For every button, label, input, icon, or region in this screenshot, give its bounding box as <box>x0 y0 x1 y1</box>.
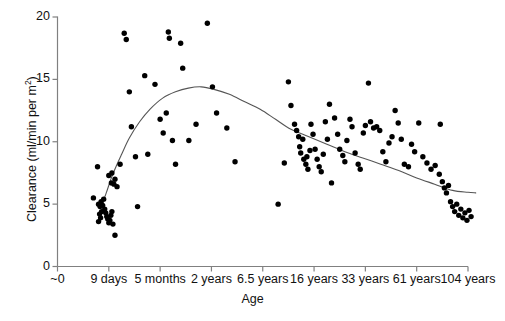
data-point <box>305 166 310 171</box>
data-point <box>416 120 421 125</box>
data-point <box>340 153 345 158</box>
data-point <box>308 122 313 127</box>
data-point <box>205 21 210 26</box>
data-point <box>444 190 449 195</box>
data-point <box>399 137 404 142</box>
data-point <box>337 147 342 152</box>
data-point <box>342 159 347 164</box>
data-point <box>297 144 302 149</box>
data-point <box>112 233 117 238</box>
data-point <box>96 219 101 224</box>
data-point <box>292 122 297 127</box>
data-point <box>389 134 394 139</box>
x-axis-label-text: Age <box>241 292 263 306</box>
data-point <box>286 79 291 84</box>
data-point <box>157 117 162 122</box>
data-point <box>91 195 96 200</box>
x-axis-tick-label: ~0 <box>50 272 64 286</box>
data-point <box>312 147 317 152</box>
data-point <box>428 166 433 171</box>
data-point <box>386 140 391 145</box>
data-point <box>186 138 191 143</box>
data-point <box>355 162 360 167</box>
data-point <box>193 122 198 127</box>
data-point <box>167 36 172 41</box>
data-point <box>327 102 332 107</box>
data-point <box>347 117 352 122</box>
x-axis-ticks <box>58 267 469 272</box>
data-point <box>170 138 175 143</box>
x-axis-tick-label: 33 years <box>341 272 389 286</box>
data-point <box>352 150 357 155</box>
data-point <box>466 208 471 213</box>
data-point <box>145 152 150 157</box>
data-point <box>314 157 319 162</box>
data-point <box>124 37 129 42</box>
data-point <box>366 80 371 85</box>
x-axis-tick-label: 5 months <box>134 272 185 286</box>
data-point <box>464 218 469 223</box>
data-point <box>129 124 134 129</box>
data-point <box>294 128 299 133</box>
data-point <box>304 154 309 159</box>
scatter-chart-figure: Clearance (ml/min per m2) 05101520 ~09 d… <box>0 0 505 321</box>
data-point <box>420 154 425 159</box>
data-point <box>300 137 305 142</box>
x-axis-label: Age <box>0 292 505 306</box>
data-point <box>332 115 337 120</box>
data-point <box>214 110 219 115</box>
data-point <box>133 154 138 159</box>
data-point <box>335 132 340 137</box>
data-point <box>361 130 366 135</box>
data-point <box>424 160 429 165</box>
data-point <box>468 214 473 219</box>
data-point <box>142 73 147 78</box>
data-point <box>112 176 117 181</box>
data-point <box>152 82 157 87</box>
data-point <box>383 159 388 164</box>
data-point <box>321 152 326 157</box>
data-point <box>109 170 114 175</box>
data-point <box>446 183 451 188</box>
data-point <box>310 132 315 137</box>
data-point <box>135 204 140 209</box>
data-point <box>95 164 100 169</box>
data-point <box>358 166 363 171</box>
data-point <box>110 221 115 226</box>
data-point <box>101 196 106 201</box>
data-point <box>114 184 119 189</box>
data-point <box>109 209 114 214</box>
data-point <box>178 41 183 46</box>
data-point <box>392 108 397 113</box>
data-point <box>288 103 293 108</box>
y-axis-ticks <box>53 17 58 267</box>
data-points <box>91 21 474 238</box>
data-point <box>380 149 385 154</box>
data-point <box>282 160 287 165</box>
data-point <box>368 119 373 124</box>
data-point <box>210 84 215 89</box>
data-point <box>122 31 127 36</box>
data-point <box>161 130 166 135</box>
data-point <box>303 162 308 167</box>
data-point <box>406 164 411 169</box>
data-point <box>344 138 349 143</box>
data-point <box>298 150 303 155</box>
data-point <box>432 163 437 168</box>
data-point <box>319 169 324 174</box>
x-axis-tick-label: 104 years <box>441 272 496 286</box>
data-point <box>412 149 417 154</box>
data-point <box>437 171 442 176</box>
data-point <box>438 122 443 127</box>
data-point <box>275 201 280 206</box>
data-point <box>452 209 457 214</box>
data-point <box>316 164 321 169</box>
data-point <box>117 162 122 167</box>
data-point <box>224 125 229 130</box>
x-axis-tick-label: 61 years <box>393 272 441 286</box>
data-point <box>396 120 401 125</box>
x-axis-tick-label: 16 years <box>290 272 338 286</box>
data-point <box>448 199 453 204</box>
data-point <box>164 110 169 115</box>
axis-lines <box>58 17 469 267</box>
